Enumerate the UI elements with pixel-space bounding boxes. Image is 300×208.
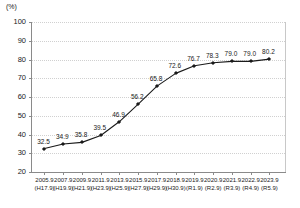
x-label-year: 2017.9 <box>148 177 166 183</box>
x-axis-category-label: 2022.9(R4.9) <box>242 177 260 192</box>
x-axis-category-label: 2021.9(R3.9) <box>223 177 241 192</box>
data-point-label: 72.6 <box>168 62 181 69</box>
data-point-label: 39.5 <box>93 124 106 131</box>
x-label-year: 2005.9 <box>35 177 53 183</box>
data-point-label: 35.8 <box>75 131 88 138</box>
x-label-era: (R5.9) <box>260 185 278 193</box>
x-axis-category-label: 2009.9(H21.9) <box>72 177 92 192</box>
x-axis-category-label: 2007.9(H19.9) <box>53 177 73 192</box>
x-axis-category-label: 2018.9(H30.9) <box>166 177 186 192</box>
data-point-label: 34.9 <box>56 133 69 140</box>
x-label-era: (R3.9) <box>223 185 241 193</box>
x-label-year: 2020.9 <box>204 177 222 183</box>
data-point-label: 65.8 <box>150 75 163 82</box>
x-label-era: (H30.9) <box>166 185 186 193</box>
x-label-year: 2015.9 <box>129 177 147 183</box>
x-label-year: 2007.9 <box>54 177 72 183</box>
x-label-year: 2023.9 <box>260 177 278 183</box>
x-label-era: (H17.9) <box>34 185 54 193</box>
x-label-year: 2009.9 <box>73 177 91 183</box>
x-axis-category-label: 2013.9(H25.9) <box>109 177 129 192</box>
data-point-label: 79.0 <box>225 50 238 57</box>
x-label-era: (R4.9) <box>242 185 260 193</box>
x-axis-category-label: 2017.9(H29.9) <box>147 177 167 192</box>
x-axis-category-label: 2005.9(H17.9) <box>34 177 54 192</box>
x-label-era: (H25.9) <box>109 185 129 193</box>
data-point-label: 79.0 <box>243 50 256 57</box>
data-point-label: 80.2 <box>262 48 275 55</box>
x-label-year: 2021.9 <box>223 177 241 183</box>
x-label-era: (H29.9) <box>147 185 167 193</box>
x-label-year: 2018.9 <box>167 177 185 183</box>
x-axis-category-label: 2020.9(R2.9) <box>204 177 222 192</box>
x-axis-category-label: 2023.9(R5.9) <box>260 177 278 192</box>
x-label-era: (H19.9) <box>53 185 73 193</box>
x-label-era: (H23.9) <box>91 185 111 193</box>
x-axis-category-label: 2019.9(R1.9) <box>185 177 203 192</box>
data-point-label: 46.9 <box>112 111 125 118</box>
x-label-era: (H27.9) <box>128 185 148 193</box>
x-label-era: (R1.9) <box>185 185 203 193</box>
x-axis-category-label: 2011.9(H23.9) <box>91 177 111 192</box>
x-label-year: 2013.9 <box>110 177 128 183</box>
data-point-label: 78.3 <box>206 52 219 59</box>
line-chart: (%) 2030405060708090100 32.534.935.839.5… <box>0 0 300 208</box>
x-label-year: 2011.9 <box>92 177 110 183</box>
x-axis-category-label: 2015.9(H27.9) <box>128 177 148 192</box>
data-point-label: 76.7 <box>187 55 200 62</box>
data-point-label: 32.5 <box>37 138 50 145</box>
x-label-year: 2019.9 <box>185 177 203 183</box>
x-label-year: 2022.9 <box>242 177 260 183</box>
x-label-era: (R2.9) <box>204 185 222 193</box>
x-label-era: (H21.9) <box>72 185 92 193</box>
data-point-label: 56.2 <box>131 93 144 100</box>
